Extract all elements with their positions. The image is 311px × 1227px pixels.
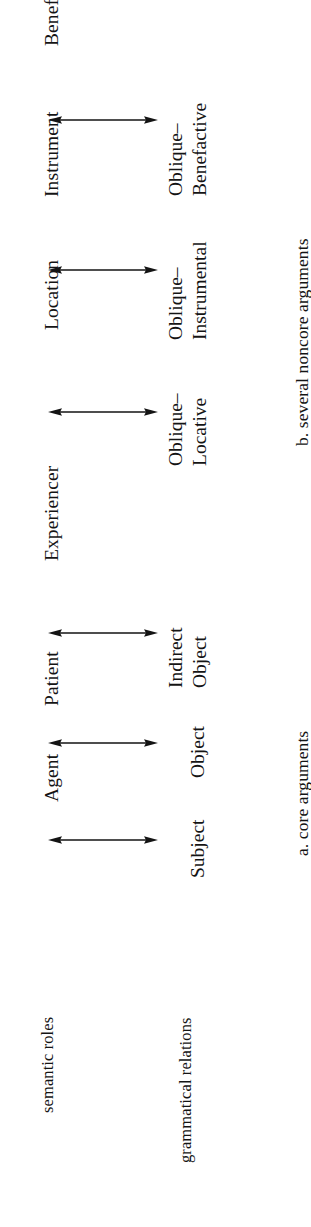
semantic-role-label: Patient bbox=[42, 651, 62, 706]
mapping-arrow bbox=[48, 264, 158, 276]
figure-canvas: Beneficiary Oblique– Benefactive Instrum… bbox=[0, 0, 311, 1227]
semantic-role-label: Beneficiary bbox=[42, 0, 62, 46]
semantic-role-label: Location bbox=[42, 260, 62, 330]
relation-line: Object bbox=[186, 726, 210, 778]
relation-line: Indirect bbox=[164, 627, 188, 688]
semantic-role-label: Instrument bbox=[42, 112, 62, 197]
relation-line: Instrumental bbox=[188, 241, 212, 340]
grammatical-relation-label: Oblique– Benefactive bbox=[164, 103, 212, 196]
grammatical-relation-label: Object bbox=[186, 726, 210, 778]
relation-line: Oblique– bbox=[164, 123, 188, 196]
axis-label-semantic-roles: semantic roles bbox=[40, 1017, 57, 1113]
relation-line: Object bbox=[188, 636, 212, 688]
semantic-role-label: Experiencer bbox=[42, 466, 62, 561]
grammatical-relation-label: Indirect Object bbox=[164, 627, 212, 688]
mapping-arrow bbox=[48, 114, 158, 126]
relation-line: Benefactive bbox=[188, 103, 212, 196]
grammatical-relation-label: Oblique– Locative bbox=[164, 393, 212, 466]
relation-line: Locative bbox=[188, 398, 212, 466]
panel-caption-b: b. several noncore arguments bbox=[294, 238, 311, 446]
relation-line: Subject bbox=[186, 820, 210, 879]
mapping-arrow bbox=[48, 737, 158, 749]
axis-label-grammatical-relations: grammatical relations bbox=[178, 1018, 195, 1164]
relation-line: Oblique– bbox=[164, 267, 188, 340]
relation-line: Oblique– bbox=[164, 393, 188, 466]
semantic-role-label: Agent bbox=[42, 754, 62, 802]
panel-caption-a: a. core arguments bbox=[294, 731, 311, 856]
grammatical-relation-label: Oblique– Instrumental bbox=[164, 241, 212, 340]
mapping-arrow bbox=[48, 834, 158, 846]
grammatical-relation-label: Subject bbox=[186, 820, 210, 879]
mapping-arrow bbox=[48, 627, 158, 639]
mapping-arrow bbox=[48, 406, 158, 418]
